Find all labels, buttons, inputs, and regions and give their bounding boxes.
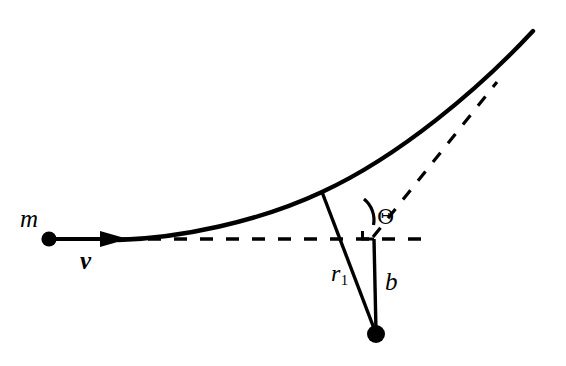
radius-label-base: r <box>331 260 340 286</box>
hyperbolic-trajectory <box>118 31 533 240</box>
incoming-particle-dot <box>41 231 56 246</box>
right-angle-mark <box>363 231 375 239</box>
scattering-angle-label: Θ <box>377 207 394 228</box>
velocity-arrow-head <box>100 231 128 247</box>
scattering-center-dot <box>367 325 385 343</box>
radius-label-subscript: 1 <box>341 272 348 288</box>
mass-label: m <box>20 206 38 231</box>
radius-vector-r1 <box>322 192 375 331</box>
impact-parameter-b <box>374 239 376 331</box>
impact-parameter-label: b <box>385 269 398 294</box>
scattering-angle-arc <box>364 199 374 225</box>
scattering-diagram: m v r1 b Θ <box>0 0 566 366</box>
velocity-label: v <box>80 248 91 273</box>
scattering-diagram-canvas <box>0 0 566 366</box>
radius-label: r1 <box>331 261 348 288</box>
